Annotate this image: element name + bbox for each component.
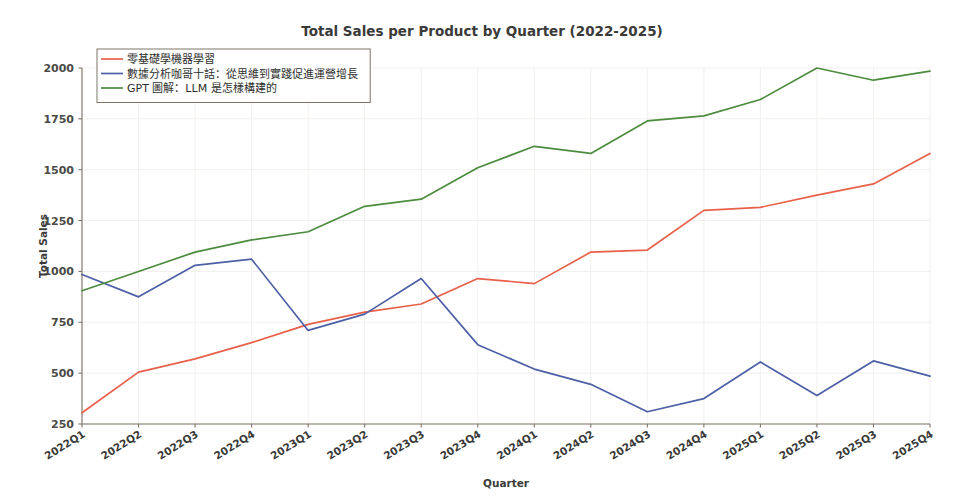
y-tick-label: 2000: [43, 62, 74, 75]
line-chart: Total Sales per Product by Quarter (2022…: [0, 0, 964, 504]
chart-legend[interactable]: 零基礎學機器學習數據分析咖哥十話：從思維到實踐促進運營增長GPT 圖解：LLM …: [97, 49, 370, 103]
y-tick-label: 250: [51, 418, 74, 431]
y-tick-label: 1500: [43, 164, 74, 177]
chart-title: Total Sales per Product by Quarter (2022…: [301, 23, 662, 39]
y-tick-label: 500: [51, 367, 74, 380]
x-axis-label: Quarter: [483, 477, 530, 489]
y-tick-label: 1750: [43, 113, 74, 126]
y-tick-label: 750: [51, 316, 74, 329]
legend-label-2[interactable]: GPT 圖解：LLM 是怎樣構建的: [127, 81, 277, 95]
legend-label-0[interactable]: 零基礎學機器學習: [127, 52, 215, 66]
y-axis-label: Total Sales: [37, 214, 49, 278]
legend-label-1[interactable]: 數據分析咖哥十話：從思維到實踐促進運營增長: [127, 67, 358, 81]
chart-figure: Total Sales per Product by Quarter (2022…: [0, 0, 964, 504]
